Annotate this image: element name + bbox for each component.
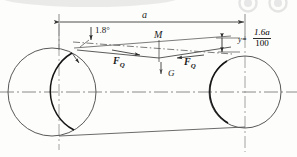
belt-angle-label: 1.8° <box>95 26 110 35</box>
left-pulley-contact-arc <box>50 53 74 130</box>
belt-drive-diagram: a 1.8° M G FQ FQ y= 1.6a 100 <box>0 0 297 157</box>
span-dimension-label: a <box>142 10 147 20</box>
sag-numerator: 1.6a <box>253 28 271 37</box>
force-right-symbol: F <box>184 56 191 67</box>
dimension-extension-lines <box>59 14 245 50</box>
sag-variable-label: y= <box>238 36 247 44</box>
diagram-canvas <box>0 0 297 157</box>
sag-dimension-group <box>216 38 240 52</box>
force-left-symbol: F <box>113 55 120 66</box>
force-left-subscript: Q <box>120 61 125 69</box>
lower-belt <box>59 127 245 136</box>
sag-fraction: 1.6a 100 <box>253 28 271 49</box>
midpoint-label: M <box>154 30 162 40</box>
force-left-label: FQ <box>113 56 125 69</box>
force-right-subscript: Q <box>191 62 196 70</box>
force-right-label: FQ <box>184 57 196 70</box>
weight-label: G <box>168 69 175 78</box>
upper-belt-outer-edge <box>74 36 231 48</box>
sag-denominator: 100 <box>253 39 271 48</box>
